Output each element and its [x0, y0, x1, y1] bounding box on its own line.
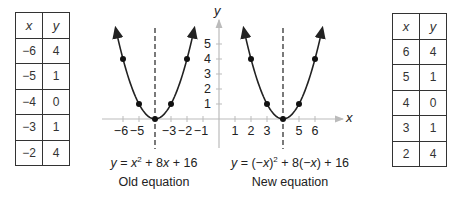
data-point [264, 101, 270, 107]
y-tick-label: 5 [204, 37, 211, 51]
data-point [168, 101, 174, 107]
data-point [184, 56, 190, 62]
data-point [312, 56, 318, 62]
y-tick-label: 2 [204, 82, 211, 96]
eq-text: ) + 16 [317, 156, 349, 170]
new-parabola-right [283, 29, 322, 119]
x-tick-label: −2 [178, 124, 192, 138]
y-tick-label: 4 [204, 52, 211, 66]
x-tick-label: −6 [114, 124, 128, 138]
x-tick-label: −5 [130, 124, 144, 138]
new-equation: y = (−x)2 + 8(−x) + 16 [222, 155, 358, 170]
data-point [280, 116, 286, 122]
y-tick-label: 1 [204, 97, 211, 111]
old-equation-caption: Old equation [101, 175, 207, 189]
eq-text: + 8 [142, 156, 163, 170]
old-equation: y = x2 + 8x + 16 [101, 155, 207, 170]
new-parabola-left [244, 29, 283, 119]
x-tick-label: −3 [162, 124, 176, 138]
y-tick-label: 3 [204, 67, 211, 81]
x-tick-label: 1 [232, 124, 239, 138]
eq-text: = [117, 156, 131, 170]
data-point [152, 116, 158, 122]
eq-text: + 16 [169, 156, 197, 170]
x-tick-label: −1 [194, 124, 208, 138]
new-equation-caption: New equation [222, 175, 358, 189]
axis-ticks: −6−5−3−2−11235612345 [114, 37, 319, 138]
x-axis-label: x [346, 110, 353, 125]
y-axis-label: y [214, 3, 221, 18]
x-tick-label: 3 [264, 124, 271, 138]
x-tick-label: 5 [296, 124, 303, 138]
data-point [296, 101, 302, 107]
old-parabola-left [116, 29, 155, 119]
eq-text: = (− [237, 156, 263, 170]
data-point [120, 56, 126, 62]
data-point [136, 101, 142, 107]
x-tick-label: 2 [248, 124, 255, 138]
old-parabola-right [155, 29, 194, 119]
x-tick-label: 6 [312, 124, 319, 138]
data-point [248, 56, 254, 62]
eq-text: + 8(− [278, 156, 311, 170]
